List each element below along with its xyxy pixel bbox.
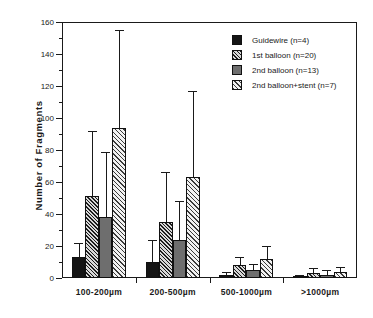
error-bar-cap	[161, 172, 170, 173]
legend-item-label: 2nd balloon (n=13)	[252, 66, 319, 75]
y-tick-mark	[56, 86, 62, 87]
error-bar-cap	[235, 257, 244, 258]
y-tick-mark	[56, 278, 62, 279]
error-bar-line	[267, 246, 268, 259]
y-tick-minor	[59, 102, 63, 103]
y-tick-mark	[56, 118, 62, 119]
bar	[72, 257, 86, 278]
bar	[173, 240, 187, 278]
bar	[112, 128, 126, 278]
bar	[219, 275, 233, 278]
error-bar-line	[193, 91, 194, 177]
y-tick-mark	[56, 214, 62, 215]
y-tick-label: 80	[45, 146, 54, 155]
error-bar-cap	[262, 246, 271, 247]
x-tick-mark	[136, 278, 137, 283]
y-tick-label: 100	[41, 114, 54, 123]
legend-swatch-icon	[232, 35, 242, 45]
legend-item: Guidewire (n=4)	[232, 33, 356, 47]
error-bar-cap	[336, 267, 345, 268]
legend-item: 2nd balloon (n=13)	[232, 63, 356, 77]
legend-item-label: 2nd balloon+stent (n=7)	[252, 81, 337, 90]
y-tick-mark	[56, 182, 62, 183]
y-tick-minor	[59, 70, 63, 71]
y-tick-mark	[56, 246, 62, 247]
y-tick-label: 160	[41, 18, 54, 27]
error-bar-cap	[222, 272, 231, 273]
y-tick-label: 140	[41, 50, 54, 59]
error-bar-cap	[249, 264, 258, 265]
legend-item-label: 1st balloon (n=20)	[252, 51, 316, 60]
legend-swatch-icon	[232, 80, 242, 90]
y-tick-label: 40	[45, 210, 54, 219]
bar	[320, 275, 334, 278]
y-tick-mark	[56, 54, 62, 55]
y-tick-minor	[59, 230, 63, 231]
x-axis-group-label: 500-1000µm	[221, 287, 272, 297]
y-tick-label: 120	[41, 82, 54, 91]
y-tick-label: 0	[50, 274, 54, 283]
error-bar-cap	[295, 275, 304, 276]
x-axis-group-label: 200-500µm	[149, 287, 195, 297]
bar	[159, 222, 173, 278]
y-tick-minor	[59, 38, 63, 39]
y-tick-label: 20	[45, 242, 54, 251]
legend-item-label: Guidewire (n=4)	[252, 36, 309, 45]
error-bar-line	[106, 152, 107, 218]
bar	[85, 196, 99, 278]
bar	[307, 273, 321, 278]
bar	[233, 265, 247, 278]
y-tick-minor	[59, 134, 63, 135]
x-tick-mark	[283, 278, 284, 283]
error-bar-cap	[88, 131, 97, 132]
error-bar-line	[119, 30, 120, 128]
y-tick-label: 60	[45, 178, 54, 187]
error-bar-line	[79, 243, 80, 257]
bar	[334, 272, 348, 278]
error-bar-cap	[175, 201, 184, 202]
bar	[260, 259, 274, 278]
error-bar-line	[92, 131, 93, 197]
error-bar-line	[152, 240, 153, 262]
error-bar-line	[166, 172, 167, 222]
legend-item: 1st balloon (n=20)	[232, 48, 356, 62]
bar-chart-figure: Number of Fragments 02040608010012014016…	[0, 0, 373, 318]
legend-item: 2nd balloon+stent (n=7)	[232, 78, 356, 92]
bar	[186, 177, 200, 278]
y-tick-minor	[59, 198, 63, 199]
bar	[99, 217, 113, 278]
x-axis-group-label: >1000µm	[301, 287, 339, 297]
y-tick-mark	[56, 22, 62, 23]
error-bar-cap	[322, 270, 331, 271]
error-bar-cap	[188, 91, 197, 92]
y-tick-minor	[59, 262, 63, 263]
x-tick-mark	[210, 278, 211, 283]
bar	[246, 270, 260, 278]
legend: Guidewire (n=4)1st balloon (n=20)2nd bal…	[232, 33, 356, 93]
y-tick-minor	[59, 166, 63, 167]
legend-swatch-icon	[232, 65, 242, 75]
x-axis-group-label: 100-200µm	[76, 287, 122, 297]
error-bar-cap	[148, 240, 157, 241]
error-bar-cap	[101, 152, 110, 153]
error-bar-cap	[309, 268, 318, 269]
bar	[146, 262, 160, 278]
error-bar-cap	[74, 243, 83, 244]
y-tick-mark	[56, 150, 62, 151]
error-bar-cap	[115, 30, 124, 31]
legend-swatch-icon	[232, 50, 242, 60]
error-bar-line	[240, 257, 241, 265]
error-bar-line	[179, 201, 180, 239]
